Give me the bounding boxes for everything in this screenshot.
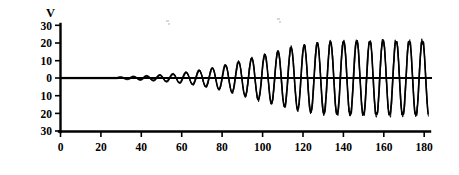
y-tick-label: 20 <box>41 108 53 120</box>
x-tick-label: 140 <box>335 141 353 153</box>
x-tick-label: 40 <box>136 141 148 153</box>
scan-artifacts <box>166 18 281 25</box>
y-axis-tick-labels: 30 20 10 0 10 20 30 <box>41 20 53 138</box>
x-tick-label: 100 <box>254 141 272 153</box>
y-axis-title: V <box>46 6 55 20</box>
x-axis-tick-labels: 0 20 40 60 80 100 120 140 160 180 <box>58 141 433 153</box>
x-tick-label: 80 <box>216 141 228 153</box>
y-tick-label: 30 <box>41 20 53 32</box>
x-tick-label: 120 <box>294 141 312 153</box>
y-tick-label: 20 <box>41 37 53 49</box>
y-tick-label: 10 <box>41 55 53 67</box>
chart-figure: V 30 20 10 0 10 20 30 <box>0 0 459 175</box>
x-tick-label: 160 <box>375 141 393 153</box>
y-tick-label: 30 <box>41 125 53 137</box>
y-tick-label: 10 <box>41 90 53 102</box>
x-tick-label: 180 <box>416 141 434 153</box>
x-tick-label: 20 <box>95 141 107 153</box>
x-tick-label: 60 <box>176 141 188 153</box>
x-tick-label: 0 <box>58 141 64 153</box>
plot-canvas: V 30 20 10 0 10 20 30 <box>0 0 459 175</box>
y-tick-label: 0 <box>46 72 52 84</box>
